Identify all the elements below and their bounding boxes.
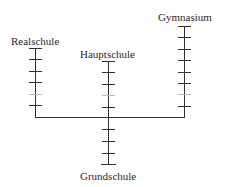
gymnasium-branch [178,26,191,118]
grundschule-label: Grundschule [80,171,136,182]
hauptschule-branch [102,61,115,165]
realschule-label: Realschule [11,36,59,47]
school-tree-diagram [0,0,226,187]
realschule-branch [29,48,42,118]
gymnasium-label: Gymnasium [158,12,212,23]
hauptschule-label: Hauptschule [80,49,135,60]
